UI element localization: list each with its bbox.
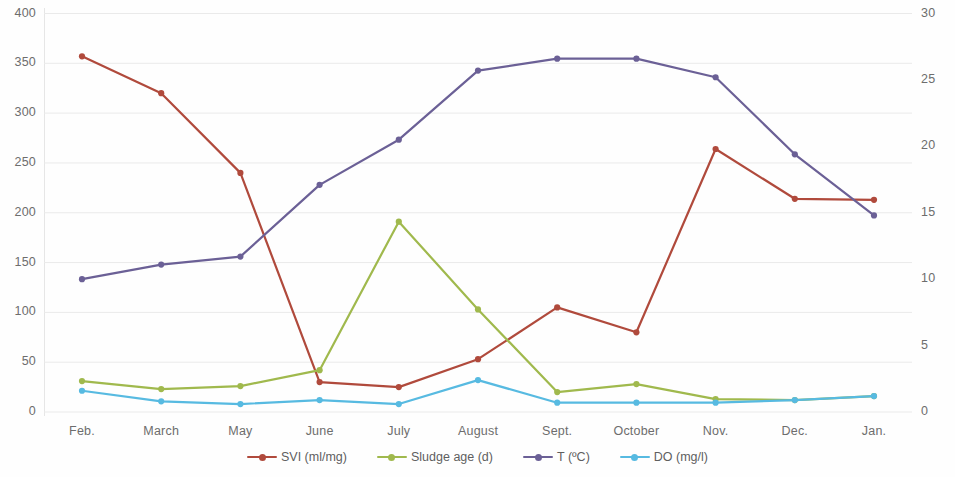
y-right-tick-label: 25 <box>921 72 955 86</box>
data-point <box>396 384 402 390</box>
data-point <box>475 356 481 362</box>
data-point <box>792 196 798 202</box>
data-point <box>237 401 243 407</box>
data-point <box>396 219 402 225</box>
y-right-tick-label: 30 <box>921 6 955 20</box>
data-point <box>158 398 164 404</box>
data-point <box>237 170 243 176</box>
data-point <box>554 304 560 310</box>
y-left-tick-label: 300 <box>2 105 36 119</box>
data-point <box>633 381 639 387</box>
data-point <box>396 401 402 407</box>
y-right-tick-label: 0 <box>921 404 955 418</box>
data-point <box>792 151 798 157</box>
x-tick-label: July <box>387 424 410 438</box>
y-left-tick-label: 350 <box>2 55 36 69</box>
data-point <box>713 74 719 80</box>
legend-label: Sludge age (d) <box>411 450 493 464</box>
data-point <box>475 377 481 383</box>
y-left-tick-label: 150 <box>2 255 36 269</box>
data-point <box>475 68 481 74</box>
x-tick-label: Jan. <box>862 424 886 438</box>
x-tick-label: May <box>228 424 252 438</box>
y-left-tick-label: 200 <box>2 205 36 219</box>
data-point <box>554 389 560 395</box>
series-line <box>82 59 874 280</box>
data-point <box>554 56 560 62</box>
series-line <box>82 56 874 387</box>
plot-area <box>0 0 955 477</box>
data-point <box>633 329 639 335</box>
y-right-tick-label: 5 <box>921 338 955 352</box>
legend-item[interactable]: SVI (ml/mg) <box>247 450 347 464</box>
data-point <box>237 383 243 389</box>
data-point <box>79 53 85 59</box>
legend-item[interactable]: Sludge age (d) <box>377 450 493 464</box>
data-point <box>317 397 323 403</box>
data-point <box>713 146 719 152</box>
data-point <box>871 212 877 218</box>
data-point <box>633 56 639 62</box>
series-line <box>82 380 874 404</box>
legend-label: DO (mg/l) <box>654 450 708 464</box>
legend-label: T (ºC) <box>557 450 590 464</box>
x-tick-label: Nov. <box>703 424 729 438</box>
y-right-tick-label: 20 <box>921 138 955 152</box>
legend-line-marker-icon <box>247 452 277 463</box>
x-tick-label: Feb. <box>69 424 95 438</box>
data-point <box>317 379 323 385</box>
data-point <box>633 400 639 406</box>
data-point <box>475 306 481 312</box>
series-sludge-age-d <box>79 219 877 404</box>
legend-line-marker-icon <box>377 452 407 463</box>
x-tick-label: Dec. <box>782 424 809 438</box>
x-tick-label: October <box>613 424 659 438</box>
data-point <box>871 393 877 399</box>
data-point <box>317 367 323 373</box>
data-point <box>237 253 243 259</box>
x-tick-label: August <box>458 424 498 438</box>
data-point <box>158 261 164 267</box>
data-point <box>158 386 164 392</box>
series-t-c <box>79 56 877 283</box>
data-point <box>317 182 323 188</box>
y-left-tick-label: 400 <box>2 6 36 20</box>
y-left-tick-label: 250 <box>2 155 36 169</box>
y-right-tick-label: 15 <box>921 205 955 219</box>
x-tick-label: June <box>306 424 334 438</box>
data-point <box>792 397 798 403</box>
legend-line-marker-icon <box>523 452 553 463</box>
y-left-tick-label: 0 <box>2 404 36 418</box>
data-point <box>79 378 85 384</box>
data-point <box>79 276 85 282</box>
x-tick-label: Sept. <box>542 424 572 438</box>
data-point <box>158 90 164 96</box>
data-point <box>713 400 719 406</box>
data-point <box>396 137 402 143</box>
series-svi-ml-mg <box>79 53 877 390</box>
line-chart: 050100150200250300350400 051015202530 Fe… <box>0 0 955 477</box>
chart-legend: SVI (ml/mg)Sludge age (d)T (ºC)DO (mg/l) <box>0 450 955 464</box>
data-point <box>554 400 560 406</box>
legend-label: SVI (ml/mg) <box>281 450 347 464</box>
data-point <box>79 388 85 394</box>
y-left-tick-label: 100 <box>2 304 36 318</box>
y-right-tick-label: 10 <box>921 271 955 285</box>
series-do-mg-l <box>79 377 877 407</box>
x-tick-label: March <box>143 424 179 438</box>
legend-item[interactable]: T (ºC) <box>523 450 590 464</box>
data-point <box>871 197 877 203</box>
y-left-tick-label: 50 <box>2 354 36 368</box>
legend-line-marker-icon <box>620 452 650 463</box>
legend-item[interactable]: DO (mg/l) <box>620 450 708 464</box>
